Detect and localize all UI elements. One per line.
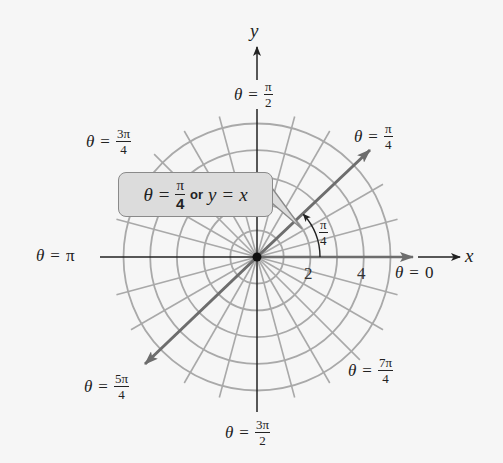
polar-diagram: y x 2 4 θ= π2 θ= π4 θ= 3π4 θ= π θ= 0 θ= … (0, 0, 503, 463)
label-theta-pi-over-4: θ= π4 (354, 122, 393, 151)
grid-radial-line (257, 257, 295, 398)
grid-radial-line (257, 257, 398, 295)
label-theta-zero: θ= 0 (395, 263, 433, 283)
grid-radial-line (219, 257, 257, 398)
polar-grid (0, 0, 503, 463)
label-theta-pi: θ= π (36, 246, 75, 266)
angle-mark-label: π4 (319, 218, 328, 247)
label-theta-5pi-over-4: θ= 5π4 (84, 372, 129, 401)
tick-4: 4 (357, 264, 366, 284)
equation-callout: θ = π4 or y = x (118, 172, 273, 217)
tick-2: 2 (304, 264, 313, 284)
label-theta-3pi-over-4: θ= 3π4 (86, 127, 131, 156)
x-axis-label: x (465, 245, 473, 267)
grid-radial-line (116, 219, 257, 257)
label-theta-pi-over-2: θ= π2 (232, 80, 275, 109)
label-theta-7pi-over-4: θ= 7π4 (348, 356, 393, 385)
label-theta-3pi-over-2: θ= 3π2 (225, 418, 270, 447)
y-axis-label: y (250, 20, 258, 42)
origin-point (253, 253, 262, 262)
